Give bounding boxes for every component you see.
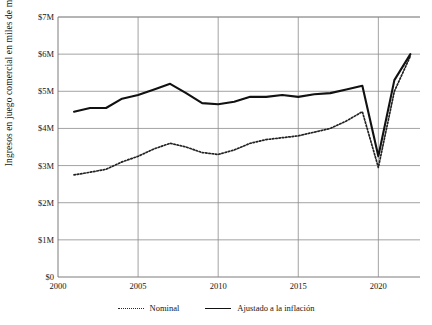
legend-item[interactable]: Ajustado a la inflación [205,303,314,313]
legend-swatch-solid-icon [205,308,231,309]
legend-item[interactable]: Nominal [118,303,180,313]
plot-area [0,0,432,325]
legend-label: Ajustado a la inflación [237,303,314,313]
chart-legend: NominalAjustado a la inflación [0,303,432,313]
series-line-adjusted [74,54,410,156]
legend-swatch-dotted-icon [118,308,144,309]
series-line-nominal [74,56,410,175]
legend-label: Nominal [150,303,180,313]
revenue-line-chart: Ingresos en juego comercial en miles de … [0,0,432,325]
